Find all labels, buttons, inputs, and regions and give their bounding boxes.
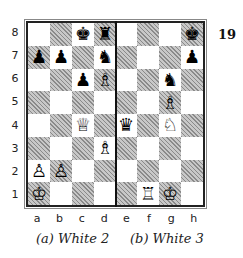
file-label: a bbox=[26, 212, 48, 225]
black-knight-icon: ♞ bbox=[162, 71, 178, 89]
square-a8 bbox=[28, 23, 50, 46]
square-d1 bbox=[94, 182, 116, 205]
black-knight-icon: ♞ bbox=[97, 48, 113, 66]
square-f1: ♖ bbox=[137, 182, 159, 205]
square-a4 bbox=[28, 114, 50, 137]
square-e3 bbox=[116, 137, 138, 160]
white-rook-icon: ♖ bbox=[140, 185, 156, 203]
square-b1 bbox=[50, 182, 72, 205]
white-pawn-icon: ♙ bbox=[31, 162, 47, 180]
square-g2 bbox=[159, 160, 181, 183]
square-a1: ♔ bbox=[28, 182, 50, 205]
caption-left: (a) White 2 bbox=[36, 231, 109, 246]
board-divider bbox=[115, 21, 117, 207]
white-bishop-icon: ♗ bbox=[162, 94, 178, 112]
white-knight-icon: ♘ bbox=[162, 116, 178, 134]
white-pawn-icon: ♙ bbox=[53, 162, 69, 180]
square-e4: ♛ bbox=[116, 114, 138, 137]
square-h7: ♟ bbox=[181, 46, 203, 69]
white-queen-icon: ♕ bbox=[75, 116, 91, 134]
rank-label: 2 bbox=[9, 165, 21, 178]
square-c8: ♚ bbox=[72, 23, 94, 46]
file-label: g bbox=[160, 212, 182, 225]
square-c5 bbox=[72, 91, 94, 114]
rank-label: 8 bbox=[9, 26, 21, 39]
white-king-icon: ♔ bbox=[162, 185, 178, 203]
square-g5: ♗ bbox=[159, 91, 181, 114]
black-pawn-icon: ♟ bbox=[31, 48, 47, 66]
rank-label: 4 bbox=[9, 119, 21, 132]
black-queen-icon: ♛ bbox=[118, 116, 134, 134]
rank-label: 6 bbox=[9, 72, 21, 85]
square-h4 bbox=[181, 114, 203, 137]
square-d8: ♜ bbox=[94, 23, 116, 46]
square-a2: ♙ bbox=[28, 160, 50, 183]
file-label: h bbox=[183, 212, 205, 225]
caption-right: (b) White 3 bbox=[130, 231, 204, 246]
square-h8: ♚ bbox=[181, 23, 203, 46]
square-g1: ♔ bbox=[159, 182, 181, 205]
square-f8 bbox=[137, 23, 159, 46]
square-e8 bbox=[116, 23, 138, 46]
square-h5 bbox=[181, 91, 203, 114]
square-h2 bbox=[181, 160, 203, 183]
square-b2: ♙ bbox=[50, 160, 72, 183]
square-b4 bbox=[50, 114, 72, 137]
square-a7: ♟ bbox=[28, 46, 50, 69]
square-d4 bbox=[94, 114, 116, 137]
square-e6 bbox=[116, 69, 138, 92]
square-g6: ♞ bbox=[159, 69, 181, 92]
square-c7 bbox=[72, 46, 94, 69]
square-e1 bbox=[116, 182, 138, 205]
square-g3 bbox=[159, 137, 181, 160]
file-label: c bbox=[71, 212, 93, 225]
black-king-icon: ♚ bbox=[75, 25, 91, 43]
square-d5 bbox=[94, 91, 116, 114]
square-b3 bbox=[50, 137, 72, 160]
white-bishop-icon: ♗ bbox=[97, 139, 113, 157]
rank-label: 5 bbox=[9, 95, 21, 108]
black-pawn-icon: ♟ bbox=[75, 71, 91, 89]
square-c4: ♕ bbox=[72, 114, 94, 137]
square-f7 bbox=[137, 46, 159, 69]
square-f6 bbox=[137, 69, 159, 92]
file-label: f bbox=[138, 212, 160, 225]
square-c1 bbox=[72, 182, 94, 205]
square-h6 bbox=[181, 69, 203, 92]
square-a3 bbox=[28, 137, 50, 160]
square-c2 bbox=[72, 160, 94, 183]
square-b5 bbox=[50, 91, 72, 114]
square-f3 bbox=[137, 137, 159, 160]
square-e2 bbox=[116, 160, 138, 183]
square-b7: ♟ bbox=[50, 46, 72, 69]
square-c6: ♟ bbox=[72, 69, 94, 92]
diagram-number: 19 bbox=[218, 27, 236, 42]
square-f4 bbox=[137, 114, 159, 137]
black-king-icon: ♚ bbox=[184, 25, 200, 43]
white-king-icon: ♔ bbox=[31, 185, 47, 203]
black-pawn-icon: ♟ bbox=[184, 48, 200, 66]
rank-label: 1 bbox=[9, 188, 21, 201]
square-b8 bbox=[50, 23, 72, 46]
square-g7 bbox=[159, 46, 181, 69]
rank-label: 7 bbox=[9, 49, 21, 62]
square-h1 bbox=[181, 182, 203, 205]
black-rook-icon: ♜ bbox=[97, 25, 113, 43]
square-e5 bbox=[116, 91, 138, 114]
square-a5 bbox=[28, 91, 50, 114]
file-label: b bbox=[48, 212, 70, 225]
rank-label: 3 bbox=[9, 142, 21, 155]
file-label: e bbox=[116, 212, 138, 225]
square-b6 bbox=[50, 69, 72, 92]
square-d3: ♗ bbox=[94, 137, 116, 160]
square-d6: ♗ bbox=[94, 69, 116, 92]
square-g8 bbox=[159, 23, 181, 46]
white-bishop-icon: ♗ bbox=[97, 71, 113, 89]
square-f5 bbox=[137, 91, 159, 114]
square-g4: ♘ bbox=[159, 114, 181, 137]
square-f2 bbox=[137, 160, 159, 183]
file-label: d bbox=[93, 212, 115, 225]
square-h3 bbox=[181, 137, 203, 160]
square-a6 bbox=[28, 69, 50, 92]
square-e7 bbox=[116, 46, 138, 69]
